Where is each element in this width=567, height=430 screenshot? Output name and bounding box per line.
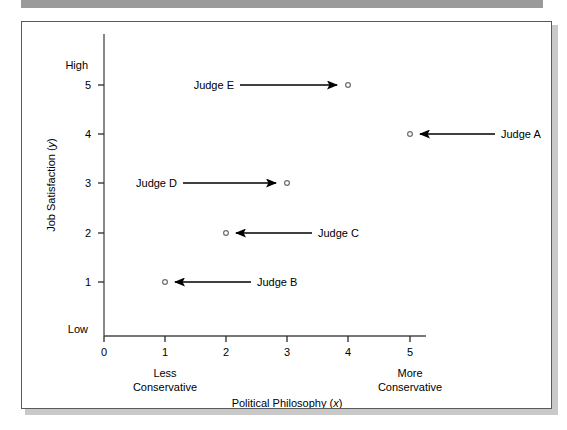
- scatter-marker-judge-e[interactable]: [346, 83, 351, 88]
- data-point-judge-c[interactable]: Judge C: [224, 227, 359, 239]
- x-tick-label-3: 3: [284, 346, 290, 358]
- scatter-marker-judge-c[interactable]: [224, 231, 229, 236]
- y-axis-low-label: Low: [68, 323, 88, 335]
- top-gray-band: [21, 0, 543, 8]
- y-tick-label-4: 4: [85, 128, 91, 140]
- y-axis-high-label: High: [65, 59, 88, 71]
- axis-end-captions: High Low Less Conservative More Conserva…: [65, 59, 442, 393]
- data-point-judge-a[interactable]: Judge A: [408, 128, 542, 140]
- x-tick-label-1: 1: [162, 346, 168, 358]
- annotation-label-judge-e: Judge E: [194, 79, 234, 91]
- x-tick-label-4: 4: [345, 346, 351, 358]
- x-axis-ticks: 0 1 2 3 4 5: [101, 336, 413, 358]
- y-axis-ticks: 5 4 3 2 1: [85, 79, 104, 288]
- y-tick-label-3: 3: [85, 177, 91, 189]
- y-axis-title: Job Satisfaction (y): [45, 138, 57, 232]
- y-axis-title-main: Job Satisfaction (: [45, 147, 57, 232]
- y-tick-label-1: 1: [85, 276, 91, 288]
- x-axis-conservative-right-label: Conservative: [378, 381, 442, 393]
- data-point-judge-d[interactable]: Judge D: [136, 177, 289, 189]
- scatter-marker-judge-a[interactable]: [408, 132, 413, 137]
- annotation-label-judge-a: Judge A: [501, 128, 541, 140]
- y-axis-title-close: ): [45, 138, 57, 142]
- x-tick-label-0: 0: [101, 346, 107, 358]
- data-point-judge-e[interactable]: Judge E: [194, 79, 351, 91]
- scatter-marker-judge-b[interactable]: [163, 280, 168, 285]
- x-axis-less-label: Less: [153, 367, 177, 379]
- figure-frame: 5 4 3 2 1 0 1 2 3 4 5 High Low Less Cons: [21, 21, 552, 409]
- annotation-label-judge-d: Judge D: [136, 177, 177, 189]
- annotation-label-judge-c: Judge C: [318, 227, 359, 239]
- y-tick-label-5: 5: [85, 79, 91, 91]
- x-axis-more-label: More: [397, 367, 422, 379]
- x-axis-title-close: ): [339, 397, 343, 408]
- x-axis-title: Political Philosophy (x): [232, 397, 343, 408]
- x-tick-label-2: 2: [223, 346, 229, 358]
- data-point-judge-b[interactable]: Judge B: [163, 276, 298, 288]
- scatter-marker-judge-d[interactable]: [285, 181, 290, 186]
- scatter-plot: 5 4 3 2 1 0 1 2 3 4 5 High Low Less Cons: [22, 22, 551, 408]
- y-tick-label-2: 2: [85, 227, 91, 239]
- annotation-label-judge-b: Judge B: [257, 276, 297, 288]
- x-axis-conservative-left-label: Conservative: [133, 381, 197, 393]
- x-axis-title-main: Political Philosophy (: [232, 397, 334, 408]
- x-tick-label-5: 5: [407, 346, 413, 358]
